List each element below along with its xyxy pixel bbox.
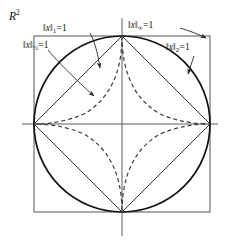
space-label-exponent: 2 [16, 8, 20, 17]
figure-canvas [0, 0, 230, 243]
linf-norm-symbol: ‖x‖ [128, 20, 138, 30]
leader-half [48, 50, 94, 96]
half-norm-equals: =1 [38, 40, 48, 50]
linf-norm-equals: =1 [143, 20, 153, 30]
label-l1-norm: ‖x‖1=1 [43, 24, 67, 34]
space-label: R2 [9, 10, 20, 22]
label-half-norm: ‖x‖½=1 [23, 41, 49, 52]
l2-norm-equals: =1 [179, 42, 189, 52]
label-l2-norm: ‖x‖2=1 [166, 43, 190, 53]
space-label-base: R [9, 10, 16, 22]
label-linf-norm: ‖x‖∞=1 [128, 21, 153, 31]
l1-norm-equals: =1 [56, 23, 66, 33]
l1-norm-symbol: ‖x‖ [43, 23, 53, 33]
half-norm-symbol: ‖x‖ [23, 40, 33, 50]
l2-norm-symbol: ‖x‖ [166, 42, 176, 52]
figure-unit-spheres: R2 ‖x‖1=1 ‖x‖½=1 ‖x‖∞=1 ‖x‖2=1 [0, 0, 230, 243]
